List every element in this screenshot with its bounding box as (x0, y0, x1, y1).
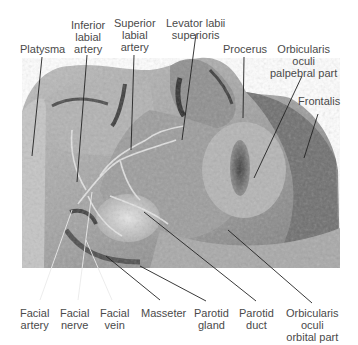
label-facial-vein: Facial vein (100, 307, 129, 331)
label-superior-labial-artery: Superior labial artery (114, 17, 156, 53)
label-parotid-duct: Parotid duct (239, 307, 274, 331)
anatomy-figure: Platysma Inferior labial artery Superior… (0, 0, 358, 345)
label-procerus: Procerus (223, 43, 267, 55)
label-facial-nerve: Facial nerve (60, 307, 89, 331)
label-parotid-gland: Parotid gland (194, 307, 229, 331)
label-inferior-labial-artery: Inferior labial artery (71, 19, 105, 55)
label-levator-labii-superioris: Levator labii superioris (166, 17, 225, 41)
label-orbicularis-oculi-palpebral-part: Orbicularis oculi palpebral part (270, 43, 337, 79)
label-masseter: Masseter (141, 307, 186, 319)
label-facial-artery: Facial artery (20, 307, 49, 331)
label-platysma: Platysma (20, 43, 65, 55)
label-frontalis: Frontalis (298, 95, 340, 107)
label-orbicularis-oculi-orbital-part: Orbicularis oculi orbital part (286, 307, 339, 343)
